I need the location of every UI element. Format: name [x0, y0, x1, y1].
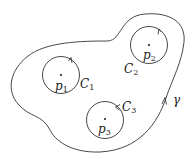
label-p2: p2 [143, 48, 156, 63]
point-p1-dot [60, 74, 62, 76]
label-gamma: γ [173, 93, 181, 107]
point-p2-dot [148, 44, 150, 46]
label-c1: C1 [80, 77, 94, 92]
label-c2: C2 [124, 62, 138, 77]
c2-arrow-icon [158, 29, 162, 35]
label-c3: C3 [122, 100, 136, 115]
label-p1: p1 [55, 79, 68, 94]
label-p3: p3 [98, 122, 111, 137]
point-p3-dot [104, 118, 106, 120]
contour-diagram: p1 C1 p2 C2 p3 C3 γ [0, 0, 195, 159]
